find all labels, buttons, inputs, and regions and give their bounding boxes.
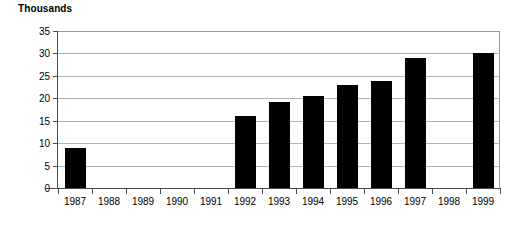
x-tick-label-1994: 1994 xyxy=(302,196,324,207)
bar-1999 xyxy=(473,53,494,188)
x-tick-mark xyxy=(58,189,59,194)
x-tick-mark xyxy=(194,189,195,194)
gridline-30 xyxy=(58,53,500,54)
x-tick-label-1989: 1989 xyxy=(132,196,154,207)
y-tick-label: 5 xyxy=(16,160,50,171)
x-tick-label-1997: 1997 xyxy=(404,196,426,207)
bar-1997 xyxy=(405,58,426,188)
x-tick-mark xyxy=(500,189,501,194)
x-tick-mark xyxy=(432,189,433,194)
x-tick-label-1998: 1998 xyxy=(438,196,460,207)
x-tick-mark xyxy=(262,189,263,194)
y-tick-label: 10 xyxy=(16,138,50,149)
x-axis-tick-labels: 1987198819891990199119921993199419951996… xyxy=(58,196,500,212)
x-tick-label-1987: 1987 xyxy=(64,196,86,207)
chart-title: Thousands xyxy=(18,3,72,14)
gridline-35 xyxy=(58,31,500,32)
x-tick-mark xyxy=(330,189,331,194)
x-tick-mark xyxy=(296,189,297,194)
bar-1994 xyxy=(303,96,324,188)
x-tick-label-1991: 1991 xyxy=(200,196,222,207)
x-tick-label-1993: 1993 xyxy=(268,196,290,207)
x-tick-label-1988: 1988 xyxy=(98,196,120,207)
bar-1992 xyxy=(235,116,256,188)
x-tick-mark xyxy=(92,189,93,194)
y-tick-label: 35 xyxy=(16,26,50,37)
x-tick-label-1995: 1995 xyxy=(336,196,358,207)
gridline-20 xyxy=(58,98,500,99)
bar-1993 xyxy=(269,102,290,188)
plot-area xyxy=(58,31,500,188)
x-tick-mark xyxy=(160,189,161,194)
x-tick-mark xyxy=(466,189,467,194)
bar-chart: Thousands 05101520253035 198719881989199… xyxy=(0,0,521,228)
x-tick-mark xyxy=(126,189,127,194)
x-tick-label-1996: 1996 xyxy=(370,196,392,207)
y-tick-label: 25 xyxy=(16,70,50,81)
x-tick-mark xyxy=(228,189,229,194)
x-tick-label-1999: 1999 xyxy=(472,196,494,207)
x-tick-label-1990: 1990 xyxy=(166,196,188,207)
x-tick-mark xyxy=(364,189,365,194)
gridline-25 xyxy=(58,76,500,77)
y-tick-label: 30 xyxy=(16,48,50,59)
bar-1995 xyxy=(337,85,358,188)
bar-1996 xyxy=(371,81,392,188)
y-tick-label: 20 xyxy=(16,93,50,104)
plot-right-border xyxy=(499,31,500,188)
x-tick-mark xyxy=(398,189,399,194)
y-tick-label: 15 xyxy=(16,115,50,126)
bar-1987 xyxy=(65,148,86,188)
x-tick-label-1992: 1992 xyxy=(234,196,256,207)
x-axis-tick-marks xyxy=(58,189,500,194)
